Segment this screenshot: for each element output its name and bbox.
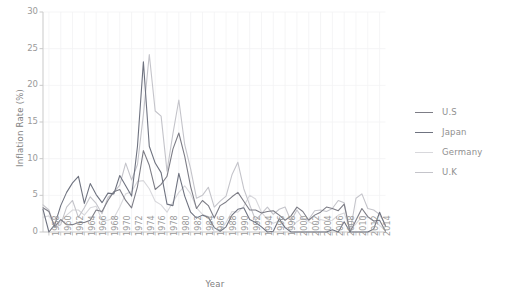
x-tick-label: 2010 [359, 215, 368, 236]
legend-item[interactable]: Japan [415, 124, 503, 140]
x-tick-label: 1972 [135, 215, 144, 236]
x-tick-label: 1994 [265, 215, 274, 236]
legend-item-label: Germany [442, 147, 482, 157]
x-tick-label: 2006 [336, 215, 345, 236]
x-tick-label: 2012 [371, 215, 380, 236]
x-tick-label: 1978 [170, 215, 179, 236]
legend-item[interactable]: U.S [415, 104, 503, 120]
legend-item-label: U.S [442, 107, 457, 117]
legend-line-swatch [415, 132, 433, 133]
x-tick-label: 2004 [324, 215, 333, 236]
legend-line-swatch [415, 112, 433, 113]
x-tick-label: 1966 [99, 215, 108, 236]
y-axis-title: Inflation Rate (%) [15, 58, 25, 198]
legend-line-swatch [415, 152, 433, 153]
x-tick-label: 1986 [217, 215, 226, 236]
x-tick-label: 1970 [123, 215, 132, 236]
x-tick-label: 1958 [52, 215, 61, 236]
legend-item-label: U.K [442, 167, 457, 177]
x-tick-label: 1962 [76, 215, 85, 236]
chart-legend: U.SJapanGermanyU.K [415, 104, 503, 184]
x-tick-label: 1990 [241, 215, 250, 236]
legend-item[interactable]: Germany [415, 144, 503, 160]
x-axis-title: Year [145, 279, 285, 289]
x-tick-label: 1980 [182, 215, 191, 236]
inflation-rate-line-chart: 051015202530 195819601962196419661968197… [0, 0, 507, 298]
x-tick-label: 1960 [64, 215, 73, 236]
x-tick-label: 1984 [206, 215, 215, 236]
x-tick-label: 1982 [194, 215, 203, 236]
x-tick-label: 2000 [300, 215, 309, 236]
x-tick-label: 2008 [347, 215, 356, 236]
legend-item[interactable]: U.K [415, 164, 503, 180]
x-tick-label: 1976 [158, 215, 167, 236]
x-tick-label: 1974 [147, 215, 156, 236]
x-tick-label: 1996 [277, 215, 286, 236]
x-tick-label: 1968 [111, 215, 120, 236]
x-tick-label: 2002 [312, 215, 321, 236]
x-tick-label: 2014 [383, 215, 392, 236]
x-tick-label: 1964 [88, 215, 97, 236]
x-tick-label: 1988 [229, 215, 238, 236]
legend-item-label: Japan [442, 127, 467, 137]
x-tick-label: 1992 [253, 215, 262, 236]
legend-line-swatch [415, 172, 433, 173]
x-tick-label: 1998 [288, 215, 297, 236]
